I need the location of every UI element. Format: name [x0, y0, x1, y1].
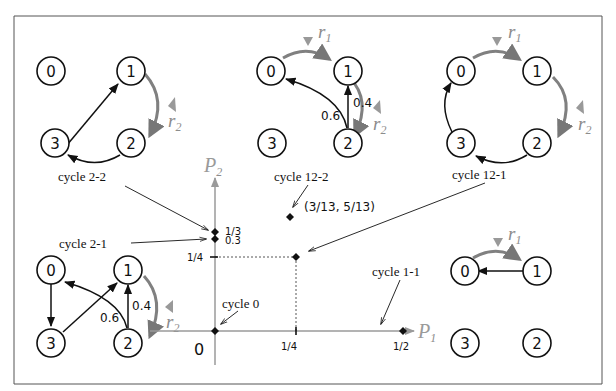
- label-cycle-2-2: cycle 2-2: [58, 169, 106, 184]
- node-0: 0: [37, 256, 65, 284]
- edge-prob-0.6: 0.6: [321, 109, 340, 123]
- point-cycle-2-1: [211, 235, 219, 243]
- svg-text:0: 0: [46, 262, 56, 280]
- pointer-cycle-12-1: [309, 183, 485, 251]
- edge-2-to-3: [68, 155, 120, 163]
- node-3: 3: [37, 329, 65, 357]
- point-cycle-2-2: [211, 228, 219, 236]
- rotor-label-r1: r1: [318, 21, 331, 45]
- svg-text:3: 3: [456, 135, 466, 153]
- point-cycle-12-2: [286, 213, 294, 221]
- node-1: 1: [117, 57, 145, 85]
- node-0: 0: [37, 57, 65, 85]
- node-2: 2: [117, 129, 145, 157]
- node-1: 1: [114, 256, 142, 284]
- rotor-label-r2: r2: [578, 113, 591, 137]
- svg-text:3: 3: [460, 335, 470, 353]
- node-2: 2: [523, 129, 551, 157]
- svg-text:1: 1: [532, 63, 542, 81]
- rotor-marker-icon: [303, 37, 313, 46]
- node-0: 0: [257, 57, 285, 85]
- point-cycle-1-1: [399, 327, 407, 335]
- panel-cycle-12-1: 0 1 3 2 r1 r2 cycle 12-1: [445, 21, 592, 182]
- edge-2-to-3: [476, 155, 527, 163]
- panel-cycle-1-1: 0 1 3 2 r1: [451, 223, 551, 357]
- point-cycle-12-1: [292, 253, 300, 261]
- svg-text:3: 3: [50, 135, 60, 153]
- pointer-cycle-2-1: [131, 239, 206, 243]
- y-tick-1-4: 1/4: [187, 252, 203, 263]
- edge-3-to-1: [67, 84, 118, 145]
- node-1: 1: [523, 57, 551, 85]
- edge-prob-0.4: 0.4: [353, 96, 372, 110]
- rotor-arc-r2: [553, 77, 566, 135]
- svg-text:3: 3: [267, 135, 277, 153]
- rotor-arc-r1: [473, 251, 519, 259]
- node-2: 2: [523, 329, 551, 357]
- rotor-marker-icon: [373, 100, 381, 114]
- point-cycle-0: [211, 327, 219, 335]
- rotor-label-r2: r2: [168, 110, 181, 134]
- svg-text:1: 1: [532, 263, 542, 281]
- point-label-12-2: (3/13, 5/13): [304, 200, 375, 214]
- panel-cycle-2-2: 0 1 3 2 r2 cycle 2-2: [37, 57, 181, 184]
- svg-text:2: 2: [343, 135, 353, 153]
- pointer-cycle-0: [221, 311, 238, 324]
- svg-text:1: 1: [123, 262, 133, 280]
- x-tick-1-2: 1/2: [393, 341, 409, 352]
- panel-cycle-2-1: 0 1 3 2 0.6 0.4 r2 cycle 2-1: [37, 236, 179, 357]
- edge-prob-0.4: 0.4: [132, 299, 151, 313]
- svg-text:2: 2: [126, 135, 136, 153]
- node-0: 0: [447, 57, 475, 85]
- edge-prob-0.6: 0.6: [100, 311, 119, 325]
- svg-text:1: 1: [126, 63, 136, 81]
- label-cycle-12-2: cycle 12-2: [274, 169, 329, 184]
- node-1: 1: [334, 57, 362, 85]
- pointer-cycle-2-2: [125, 186, 208, 230]
- label-cycle-12-1: cycle 12-1: [452, 167, 507, 182]
- edge-3-to-0: [445, 83, 452, 132]
- node-2: 2: [334, 129, 362, 157]
- rotor-marker-icon: [492, 37, 502, 46]
- rotor-arc-r1: [473, 51, 519, 59]
- rotor-arc-r1: [283, 51, 329, 59]
- label-cycle-1-1: cycle 1-1: [372, 264, 420, 279]
- node-0: 0: [451, 257, 479, 285]
- y-tick-1-3: 1/3: [225, 226, 241, 237]
- svg-text:2: 2: [123, 335, 133, 353]
- node-3: 3: [41, 129, 69, 157]
- rotor-arc-r2: [145, 74, 158, 135]
- x-axis-label: P1: [417, 320, 436, 345]
- pointer-cycle-1-1: [381, 280, 400, 324]
- rotor-marker-icon: [493, 238, 503, 247]
- figure-canvas: 0 1 3 2 r2 cycle 2-2 0 1 3 2 0.6 0.4 r1 …: [0, 0, 616, 391]
- origin-label: 0: [194, 340, 204, 359]
- label-cycle-2-1: cycle 2-1: [59, 236, 107, 251]
- node-1: 1: [523, 257, 551, 285]
- node-3: 3: [451, 329, 479, 357]
- rotor-marker-icon: [576, 100, 584, 114]
- svg-text:2: 2: [532, 135, 542, 153]
- rotor-label-r2: r2: [373, 113, 386, 137]
- svg-text:3: 3: [46, 335, 56, 353]
- panel-cycle-12-2: 0 1 3 2 0.6 0.4 r1 r2 cycle 12-2: [257, 21, 386, 184]
- label-cycle-0: cycle 0: [222, 296, 259, 311]
- svg-text:0: 0: [266, 63, 276, 81]
- svg-text:0: 0: [460, 263, 470, 281]
- svg-text:0: 0: [456, 63, 466, 81]
- svg-text:0: 0: [46, 63, 56, 81]
- node-3: 3: [447, 129, 475, 157]
- svg-text:2: 2: [532, 335, 542, 353]
- y-axis-label: P2: [203, 154, 222, 179]
- rotor-label-r1: r1: [508, 223, 521, 247]
- node-3: 3: [258, 129, 286, 157]
- node-2: 2: [114, 329, 142, 357]
- rotor-label-r1: r1: [508, 21, 521, 45]
- x-tick-1-4: 1/4: [281, 341, 297, 352]
- svg-text:1: 1: [343, 63, 353, 81]
